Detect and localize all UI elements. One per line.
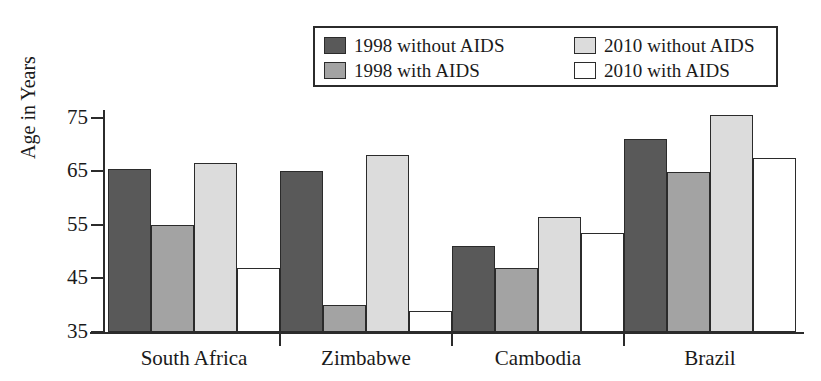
legend-item-2010-with-aids: 2010 with AIDS [574, 61, 774, 80]
y-tick-label: 65 [44, 160, 88, 181]
bar [538, 217, 581, 332]
bar [280, 171, 323, 332]
x-axis-category-label: South Africa [141, 348, 248, 369]
y-tick-label: 55 [44, 214, 88, 235]
y-tick-mark [91, 117, 104, 119]
bar [151, 225, 194, 332]
legend-label: 1998 with AIDS [354, 61, 480, 80]
legend-item-1998-without-aids: 1998 without AIDS [324, 36, 574, 55]
bar [366, 155, 409, 332]
bar [624, 139, 667, 332]
bar [237, 268, 280, 332]
x-axis-category-label: Cambodia [495, 348, 581, 369]
legend-label: 1998 without AIDS [354, 36, 505, 55]
bar-chart: 1998 without AIDS 2010 without AIDS 1998… [0, 0, 821, 381]
bar [108, 169, 151, 332]
legend-swatch-icon [574, 62, 596, 79]
y-axis-title: Age in Years [17, 38, 40, 178]
legend-grid: 1998 without AIDS 2010 without AIDS 1998… [324, 33, 772, 83]
legend-item-2010-without-aids: 2010 without AIDS [574, 36, 774, 55]
bar [323, 305, 366, 332]
y-tick-mark [91, 170, 104, 172]
bar [194, 163, 237, 332]
bar [409, 311, 452, 332]
x-axis-line [90, 332, 804, 334]
bar [452, 246, 495, 332]
y-tick-label: 35 [44, 321, 88, 342]
bar [710, 115, 753, 332]
chart-legend: 1998 without AIDS 2010 without AIDS 1998… [313, 26, 778, 87]
y-tick-label: 45 [44, 267, 88, 288]
plot-area [104, 110, 804, 332]
legend-swatch-icon [324, 37, 346, 54]
x-tick-mark [623, 334, 625, 346]
x-tick-mark [279, 334, 281, 346]
y-tick-mark [91, 331, 104, 333]
bar [581, 233, 624, 332]
x-tick-mark [451, 334, 453, 346]
y-tick-mark [91, 224, 104, 226]
legend-swatch-icon [574, 37, 596, 54]
x-axis-category-label: Zimbabwe [321, 348, 411, 369]
x-axis-category-label: Brazil [684, 348, 735, 369]
legend-label: 2010 without AIDS [604, 36, 755, 55]
legend-label: 2010 with AIDS [604, 61, 730, 80]
y-tick-label: 75 [44, 107, 88, 128]
bar [495, 268, 538, 332]
bar [753, 158, 796, 332]
legend-swatch-icon [324, 62, 346, 79]
bar [667, 172, 710, 332]
y-tick-mark [91, 277, 104, 279]
legend-item-1998-with-aids: 1998 with AIDS [324, 61, 574, 80]
